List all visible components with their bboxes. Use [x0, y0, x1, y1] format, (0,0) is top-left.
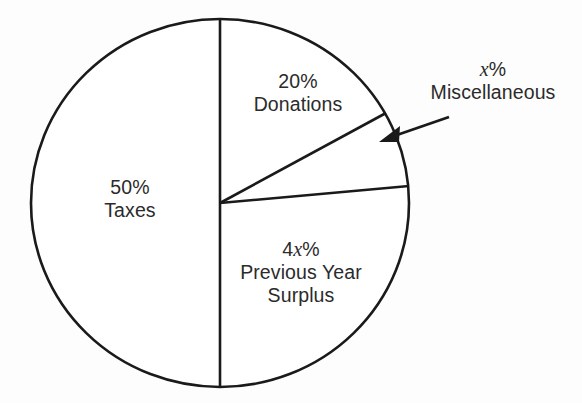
slice-label-taxes-percent: 50% — [62, 176, 198, 199]
miscellaneous-percent-variable: x — [480, 58, 489, 80]
surplus-percent-suffix: % — [302, 238, 319, 260]
slice-label-surplus-percent: 4x% — [212, 238, 390, 261]
slice-label-miscellaneous: x% Miscellaneous — [404, 58, 582, 104]
miscellaneous-percent-suffix: % — [489, 58, 506, 80]
slice-label-previous-year-surplus: 4x% Previous Year Surplus — [212, 238, 390, 307]
slice-label-surplus-name-line2: Surplus — [212, 284, 390, 307]
slice-label-surplus-name-line1: Previous Year — [212, 261, 390, 284]
slice-label-donations-name: Donations — [228, 93, 368, 116]
surplus-percent-variable: x — [293, 238, 302, 260]
slice-label-donations: 20% Donations — [228, 70, 368, 116]
pie-chart: 50% Taxes 20% Donations x% Miscellaneous… — [0, 0, 582, 403]
miscellaneous-callout-arrow-shaft — [394, 117, 449, 136]
slice-label-taxes-name: Taxes — [62, 199, 198, 222]
surplus-percent-prefix: 4 — [282, 238, 293, 260]
slice-label-taxes: 50% Taxes — [62, 176, 198, 222]
slice-label-donations-percent: 20% — [228, 70, 368, 93]
slice-label-miscellaneous-name: Miscellaneous — [404, 81, 582, 104]
slice-label-miscellaneous-percent: x% — [404, 58, 582, 81]
